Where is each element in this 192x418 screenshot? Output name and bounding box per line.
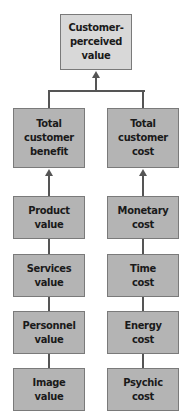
customer-perceived-value-box: Customer- perceived value — [60, 14, 132, 70]
customer-perceived-value-label: Customer- perceived value — [68, 21, 123, 63]
total-customer-benefit-box: Total customer benefit — [13, 108, 85, 168]
connector-line — [48, 239, 50, 254]
connector-line — [142, 175, 144, 196]
personnel-value-label: Personnel value — [22, 319, 75, 347]
monetary-cost-box: Monetary cost — [107, 196, 179, 239]
image-value-box: Image value — [13, 368, 85, 411]
total-customer-cost-box: Total customer cost — [107, 108, 179, 168]
services-value-box: Services value — [13, 254, 85, 297]
connector-line — [142, 354, 144, 368]
connector-line — [48, 90, 50, 108]
image-value-label: Image value — [33, 376, 66, 404]
total-customer-cost-label: Total customer cost — [118, 117, 168, 159]
connector-line — [48, 354, 50, 368]
total-customer-benefit-label: Total customer benefit — [24, 117, 74, 159]
monetary-cost-label: Monetary cost — [118, 204, 169, 232]
product-value-box: Product value — [13, 196, 85, 239]
time-cost-label: Time cost — [130, 262, 156, 290]
connector-line — [142, 239, 144, 254]
time-cost-box: Time cost — [107, 254, 179, 297]
connector-line — [48, 175, 50, 196]
connector-line — [48, 90, 145, 92]
psychic-cost-label: Psychic cost — [123, 376, 162, 404]
product-value-label: Product value — [28, 204, 70, 232]
personnel-value-box: Personnel value — [13, 311, 85, 354]
psychic-cost-box: Psychic cost — [107, 368, 179, 411]
connector-line — [142, 297, 144, 311]
connector-line — [48, 297, 50, 311]
services-value-label: Services value — [27, 262, 72, 290]
energy-cost-box: Energy cost — [107, 311, 179, 354]
energy-cost-label: Energy cost — [124, 319, 161, 347]
connector-line — [142, 90, 144, 108]
